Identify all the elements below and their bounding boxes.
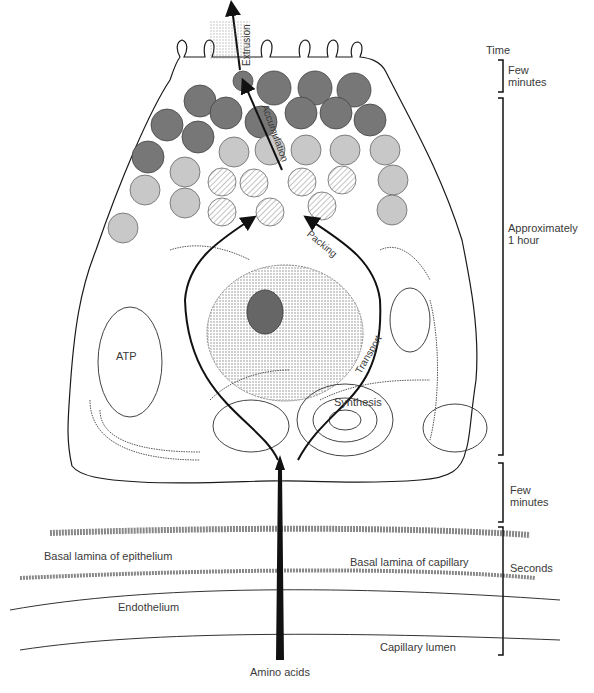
basal-lamina-epithelium-band bbox=[50, 529, 530, 535]
endothelium-bottom bbox=[20, 634, 560, 650]
nucleolus bbox=[247, 290, 283, 334]
label-endothelium: Endothelium bbox=[118, 601, 179, 613]
time-seconds: Seconds bbox=[510, 562, 553, 574]
time-brackets bbox=[498, 60, 503, 655]
nucleus bbox=[207, 265, 363, 401]
amino-acids-arrow bbox=[275, 455, 285, 660]
condensing-vacuoles bbox=[208, 166, 356, 226]
secretory-cell-diagram bbox=[0, 0, 594, 693]
label-amino-acids: Amino acids bbox=[250, 666, 310, 678]
label-extrusion: Extrusion bbox=[241, 24, 253, 66]
time-approx-1-hour: Approximately 1 hour bbox=[508, 222, 578, 246]
endothelium-top bbox=[10, 590, 560, 610]
label-basal-lamina-epithelium: Basal lamina of epithelium bbox=[44, 550, 172, 562]
label-atp: ATP bbox=[116, 350, 137, 362]
time-few-minutes-2: Few minutes bbox=[510, 484, 549, 508]
time-header: Time bbox=[486, 44, 510, 56]
label-capillary-lumen: Capillary lumen bbox=[380, 641, 456, 653]
label-synthesis: Synthesis bbox=[334, 396, 382, 408]
label-basal-lamina-capillary: Basal lamina of capillary bbox=[350, 556, 469, 568]
time-few-minutes-1: Few minutes bbox=[508, 64, 547, 88]
